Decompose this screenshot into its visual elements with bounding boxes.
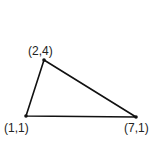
- vertex-point-7-1: [134, 115, 138, 119]
- triangle: [26, 60, 136, 117]
- vertex-point-1-1: [24, 114, 28, 118]
- vertex-label-2-4: (2,4): [28, 44, 53, 58]
- triangle-diagram: (2,4) (1,1) (7,1): [0, 0, 164, 143]
- vertex-point-2-4: [42, 58, 46, 62]
- vertex-label-7-1: (7,1): [124, 121, 149, 135]
- vertex-label-1-1: (1,1): [4, 121, 29, 135]
